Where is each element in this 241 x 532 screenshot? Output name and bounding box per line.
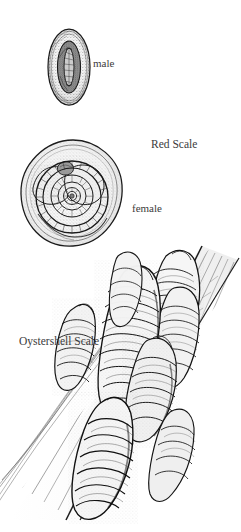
illustration-plate: male Red Scale female Oystershell Scale <box>0 0 241 532</box>
label-red-scale: Red Scale <box>151 138 197 150</box>
label-oystershell-scale: Oystershell Scale <box>19 335 99 347</box>
red-scale-male-figure <box>40 22 98 112</box>
oystershell-scale-figure <box>0 252 241 520</box>
label-female: female <box>132 202 162 214</box>
red-scale-female-figure <box>12 136 134 254</box>
label-male: male <box>93 57 114 69</box>
